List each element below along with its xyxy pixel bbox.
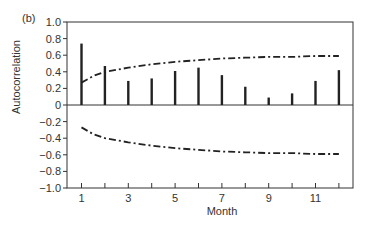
y-tick-label: −0.4 [39, 132, 61, 144]
y-tick-label: −0.2 [39, 116, 61, 128]
x-tick-label: 3 [125, 192, 131, 204]
x-tick-label: 1 [78, 192, 84, 204]
x-tick-label: 9 [266, 192, 272, 204]
y-tick-label: 0 [55, 99, 61, 111]
y-tick-label: 0.6 [46, 49, 61, 61]
y-tick-label: −1.0 [39, 182, 61, 194]
y-tick-label: 1.0 [46, 16, 61, 28]
y-tick-label: −0.6 [39, 149, 61, 161]
autocorrelation-chart: 1.00.80.60.40.20−0.2−0.4−0.6−0.8−1.01357… [0, 0, 373, 225]
x-tick-label: 5 [172, 192, 178, 204]
x-tick-label: 11 [310, 192, 321, 204]
upper-confidence-curve [82, 56, 339, 83]
x-axis-label: Month [207, 205, 238, 217]
y-tick-label: 0.8 [46, 33, 61, 45]
x-tick-label: 7 [219, 192, 225, 204]
y-tick-label: −0.8 [39, 165, 61, 177]
lower-confidence-curve [82, 127, 339, 154]
y-tick-label: 0.2 [46, 82, 61, 94]
y-tick-label: 0.4 [46, 66, 61, 78]
